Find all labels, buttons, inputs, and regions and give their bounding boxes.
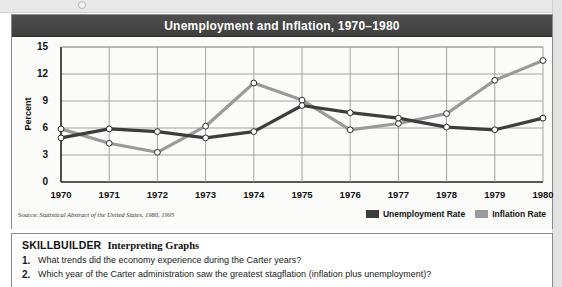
data-point-marker (106, 126, 112, 132)
data-point-marker (155, 129, 161, 135)
data-point-marker (155, 149, 161, 155)
skillbuilder-label: SKILLBUILDER (22, 239, 101, 251)
figure-panel: Unemployment and Inflation, 1970–1980 Pe… (11, 14, 553, 229)
x-axis-tick-label: 1971 (89, 189, 129, 200)
data-point-marker (540, 115, 546, 121)
source-prefix: Source: (18, 211, 38, 218)
legend-swatch-icon (366, 210, 379, 218)
skillbuilder-panel: SKILLBUILDERInterpreting Graphs 1.What t… (11, 233, 553, 287)
question-number: 1. (22, 254, 33, 267)
x-axis-tick-label: 1970 (41, 189, 81, 200)
legend-label: Inflation Rate (492, 209, 546, 219)
chart-plot-area: Percent 03691215197019711972197319741975… (12, 37, 552, 197)
chart-legend: Unemployment RateInflation Rate (366, 209, 546, 219)
x-axis-tick-label: 1980 (523, 189, 562, 200)
page-right-strip (552, 0, 562, 287)
source-note: Source: Statistical Abstract of the Unit… (18, 211, 174, 218)
page-marker-icon (78, 1, 86, 9)
data-point-marker (492, 77, 498, 83)
x-axis-tick-label: 1973 (186, 189, 226, 200)
x-axis-tick-label: 1976 (330, 189, 370, 200)
data-point-marker (58, 135, 64, 141)
data-point-marker (492, 127, 498, 133)
y-axis-tick-label: 0 (24, 177, 48, 187)
y-axis-tick-label: 3 (24, 150, 48, 160)
y-axis-tick-label: 12 (24, 69, 48, 79)
data-point-marker (203, 123, 209, 129)
data-point-marker (299, 103, 305, 109)
data-point-marker (444, 124, 450, 130)
x-axis-tick-label: 1979 (475, 189, 515, 200)
skillbuilder-question: 2.Which year of the Carter administratio… (22, 268, 542, 281)
legend-item-unemployment: Unemployment Rate (366, 209, 465, 219)
figure-body: Percent 03691215197019711972197319741975… (12, 37, 552, 229)
page-top-strip (0, 0, 562, 13)
source-text: Statistical Abstract of the United State… (39, 211, 174, 218)
question-number: 2. (22, 268, 33, 281)
legend-swatch-icon (475, 210, 488, 218)
skillbuilder-questions: 1.What trends did the economy experience… (22, 254, 542, 281)
y-axis-tick-label: 9 (24, 96, 48, 106)
data-point-marker (347, 110, 353, 116)
skillbuilder-heading: SKILLBUILDERInterpreting Graphs (22, 239, 542, 251)
data-point-marker (396, 115, 402, 121)
x-axis-tick-label: 1975 (282, 189, 322, 200)
skillbuilder-question: 1.What trends did the economy experience… (22, 254, 542, 267)
figure-title: Unemployment and Inflation, 1970–1980 (12, 15, 552, 37)
page-root: Unemployment and Inflation, 1970–1980 Pe… (0, 0, 562, 287)
question-text: Which year of the Carter administration … (38, 268, 431, 281)
x-axis-tick-label: 1972 (137, 189, 177, 200)
data-point-marker (347, 127, 353, 133)
data-point-marker (106, 140, 112, 146)
x-axis-tick-label: 1977 (378, 189, 418, 200)
data-point-marker (251, 80, 257, 86)
data-point-marker (203, 135, 209, 141)
x-axis-tick-label: 1974 (234, 189, 274, 200)
line-chart (12, 37, 552, 197)
data-point-marker (540, 58, 546, 64)
data-point-marker (251, 129, 257, 135)
legend-label: Unemployment Rate (383, 209, 465, 219)
legend-item-inflation: Inflation Rate (475, 209, 546, 219)
question-text: What trends did the economy experience d… (38, 254, 301, 267)
x-axis-tick-label: 1978 (427, 189, 467, 200)
figure-meta-row: Source: Statistical Abstract of the Unit… (12, 203, 552, 225)
y-axis-tick-label: 15 (24, 42, 48, 52)
data-point-marker (58, 126, 64, 132)
data-point-marker (444, 111, 450, 117)
y-axis-tick-label: 6 (24, 123, 48, 133)
skillbuilder-subheading: Interpreting Graphs (107, 240, 199, 251)
